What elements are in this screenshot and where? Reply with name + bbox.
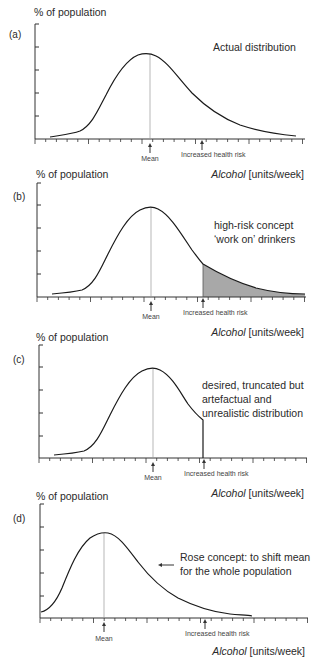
panel-d: % of population (d) Mean Increased healt… xyxy=(13,490,310,657)
panel-tag: (d) xyxy=(13,513,25,524)
y-axis-label: % of population xyxy=(36,490,109,502)
panel-annotation-line-2: ‘work on’ drinkers xyxy=(214,233,295,245)
panel-a: % of population (a) Mean Increased healt xyxy=(9,6,305,180)
high-risk-shaded-area xyxy=(203,264,305,297)
y-axis-label: % of population xyxy=(36,168,109,180)
panel-annotation-line-3: unrealistic distribution xyxy=(202,407,303,419)
panel-tag: (a) xyxy=(9,29,21,40)
x-ticks xyxy=(35,139,303,144)
y-ticks xyxy=(40,504,44,596)
y-axis-label: % of population xyxy=(36,331,109,343)
mean-arrow xyxy=(102,622,106,632)
y-ticks xyxy=(39,345,43,436)
shift-left-arrow-icon xyxy=(158,563,174,567)
risk-label: Increased health risk xyxy=(183,309,248,316)
panel-annotation-line-1: high-risk concept xyxy=(214,219,293,231)
panel-tag: (b) xyxy=(13,191,25,202)
x-axis-label: Alcohol [units/week] xyxy=(211,645,305,657)
panel-annotation-line-2: artefactual and xyxy=(202,393,272,405)
x-axis-label: Alcohol [units/week] xyxy=(210,487,304,499)
y-ticks xyxy=(35,24,39,116)
x-ticks xyxy=(40,618,308,623)
mean-label: Mean xyxy=(95,635,113,642)
mean-arrow xyxy=(148,143,152,153)
mean-arrow xyxy=(149,301,153,311)
risk-label: Increased health risk xyxy=(184,470,249,477)
panel-annotation: Actual distribution xyxy=(213,41,296,53)
x-ticks xyxy=(39,458,307,463)
truncated-distribution-curve xyxy=(54,368,203,458)
panel-annotation-line-1: desired, truncated but xyxy=(202,379,304,391)
risk-label: Increased health risk xyxy=(181,151,246,158)
y-ticks xyxy=(37,183,41,274)
distribution-curve xyxy=(50,54,296,137)
panel-annotation-line-1: Rose concept: to shift mean xyxy=(180,551,310,563)
mean-label: Mean xyxy=(141,155,159,162)
panel-annotation-line-2: for the whole population xyxy=(180,565,292,577)
risk-arrow xyxy=(203,619,207,629)
risk-label: Increased health risk xyxy=(185,630,250,637)
x-axis-label: Alcohol [units/week] xyxy=(210,168,304,180)
panel-tag: (c) xyxy=(13,354,25,365)
mean-label: Mean xyxy=(142,313,160,320)
panel-c: % of population (c) Mean Increased healt… xyxy=(13,331,307,499)
risk-arrow xyxy=(200,140,204,150)
risk-arrow xyxy=(201,298,205,308)
x-ticks xyxy=(37,297,305,302)
mean-label: Mean xyxy=(144,474,162,481)
risk-arrow xyxy=(202,459,206,469)
mean-arrow xyxy=(151,462,155,472)
y-axis-label: % of population xyxy=(34,6,107,18)
x-axis-label: Alcohol [units/week] xyxy=(210,326,304,338)
figure-canvas: % of population (a) Mean Increased healt xyxy=(0,0,318,659)
panel-b: % of population (b) Mean Increased healt… xyxy=(13,168,306,338)
